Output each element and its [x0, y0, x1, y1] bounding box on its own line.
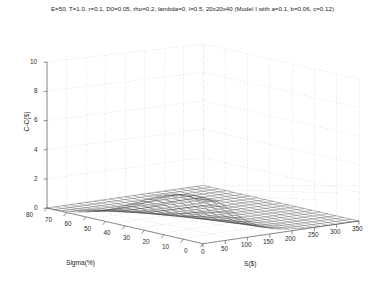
sigma-tick-label: 80 [26, 211, 33, 218]
sigma-tick-label: 30 [123, 234, 130, 241]
sigma-axis-label: Sigma(%) [66, 259, 95, 266]
s-tick-label: 250 [308, 231, 319, 238]
sigma-tick-label: 20 [143, 238, 150, 245]
z-axis-label: C-C($) [23, 102, 30, 142]
s-tick-label: 350 [352, 225, 363, 232]
axes-3d-canvas [0, 0, 385, 293]
z-tick-label: 4 [34, 146, 38, 153]
z-tick-label: 0 [34, 204, 38, 211]
z-tick-label: 6 [34, 116, 38, 123]
sigma-tick-label: 10 [162, 243, 169, 250]
z-axis-ticks [44, 62, 47, 208]
s-tick-label: 0 [201, 248, 205, 255]
z-tick-label: 2 [34, 175, 38, 182]
mesh-surface [47, 185, 359, 229]
z-tick-label: 10 [30, 58, 37, 65]
grid-wall-right [203, 44, 359, 221]
sigma-tick-label: 40 [104, 229, 111, 236]
sigma-tick-label: 60 [65, 220, 72, 227]
z-tick-label: 8 [34, 87, 38, 94]
s-tick-label: 100 [241, 241, 252, 248]
sigma-tick-label: 0 [184, 247, 188, 254]
sigma-tick-label: 50 [84, 225, 91, 232]
s-tick-label: 300 [330, 228, 341, 235]
s-tick-label: 50 [221, 245, 228, 252]
grid-wall-left [47, 44, 203, 208]
sigma-tick-label: 70 [45, 216, 52, 223]
matlab-figure-window: E=50, T=1.0, r=0.1, D0=0.05, rho=0.2, la… [0, 0, 385, 293]
s-tick-label: 150 [263, 238, 274, 245]
s-axis-label: S($) [244, 260, 256, 267]
s-tick-label: 200 [285, 235, 296, 242]
